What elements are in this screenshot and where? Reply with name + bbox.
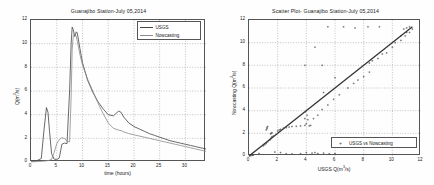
hydrograph-x-tick-15: 15 [100, 163, 114, 168]
panel-hydrograph: Guanajibo Station-July 05,2014 024681012… [0, 0, 217, 185]
hydrograph-y-tick-10: 10 [15, 40, 27, 45]
scatter-x-tick-10: 10 [384, 157, 398, 162]
scatter-y-tick-2: 2 [233, 130, 245, 135]
legend-item-scatter: + USGS vs Nowcasting [332, 138, 416, 149]
scatter-y-tick-12: 12 [233, 16, 245, 21]
scatter-x-tick-2: 2 [270, 157, 284, 162]
hydrograph-plot-area [30, 19, 205, 161]
hydrograph-x-tick-30: 30 [177, 163, 191, 168]
hydrograph-legend: USGS Nowcasting [137, 21, 201, 40]
legend-item-nowcasting: Nowcasting [138, 31, 200, 39]
scatter-y-tick-10: 10 [233, 39, 245, 44]
hydrograph-series [31, 27, 206, 162]
scatter-x-axis-label: USGS Q(m3/s) [248, 165, 420, 172]
scatter-plot-area [248, 19, 420, 155]
legend-label-nowcasting: Nowcasting [156, 33, 180, 38]
figure-canvas: Guanajibo Station-July 05,2014 024681012… [0, 0, 434, 185]
hydrograph-y-axis-label: Q(m3/s) [13, 88, 20, 105]
usgs-line-icon [140, 27, 153, 28]
hydrograph-y-tick-2: 2 [15, 135, 27, 140]
hydrograph-x-tick-5: 5 [49, 163, 63, 168]
scatter-x-tick-6: 6 [327, 157, 341, 162]
hydrograph-x-tick-0: 0 [23, 163, 37, 168]
hydrograph-y-tick-4: 4 [15, 111, 27, 116]
hydrograph-x-tick-20: 20 [126, 163, 140, 168]
hydrograph-gridlines [31, 20, 206, 162]
scatter-x-tick-12: 12 [413, 157, 427, 162]
scatter-legend: + USGS vs Nowcasting [331, 137, 417, 148]
hydrograph-y-tick-8: 8 [15, 64, 27, 69]
hydrograph-x-axis-label: time (hours) [30, 170, 205, 176]
legend-item-usgs: USGS [138, 23, 200, 31]
scatter-y-axis-label: Nowcasting Q(m3/s) [230, 71, 237, 115]
scatter-x-tick-0: 0 [241, 157, 255, 162]
hydrograph-y-tick-12: 12 [15, 16, 27, 21]
scatter-x-tick-4: 4 [298, 157, 312, 162]
plus-marker-icon: + [334, 141, 347, 146]
hydrograph-title: Guanajibo Station-July 05,2014 [0, 8, 217, 14]
panel-scatter: Scatter Plot- Guanajibo Station-July 05,… [217, 0, 434, 185]
scatter-svg [249, 20, 421, 156]
legend-label-scatter: USGS vs Nowcasting [349, 141, 393, 146]
scatter-title: Scatter Plot- Guanajibo Station-July 05,… [217, 8, 434, 14]
hydrograph-x-tick-25: 25 [152, 163, 166, 168]
hydrograph-svg [31, 20, 206, 162]
legend-label-usgs: USGS [156, 25, 169, 30]
hydrograph-x-tick-10: 10 [74, 163, 88, 168]
scatter-x-tick-8: 8 [356, 157, 370, 162]
nowcasting-line-icon [140, 35, 153, 36]
scatter-y-tick-8: 8 [233, 62, 245, 67]
